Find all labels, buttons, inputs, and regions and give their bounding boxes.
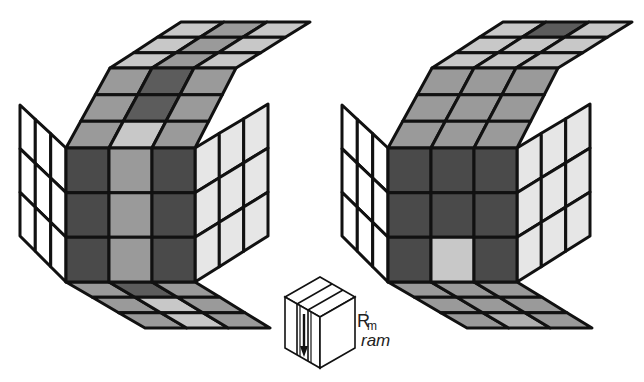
facelet [109,148,152,193]
front-face [388,148,517,282]
top-face-upper [110,22,310,68]
facelet [431,193,474,238]
top-face-lower [66,68,236,148]
facelet [388,148,431,193]
facelet [431,148,474,193]
facelet [388,237,431,282]
facelet [109,193,152,238]
right-face [195,104,268,282]
facelet [388,193,431,238]
facelet [66,237,109,282]
left-face [342,105,388,282]
facelet [109,237,152,282]
facelet [66,193,109,238]
facelet [152,148,195,193]
bottom-face [66,282,270,328]
rubiks-move-diagram: R′m ram [0,0,644,382]
middle-slice-move-icon [285,277,355,368]
facelet [431,237,474,282]
top-face-upper [432,22,632,68]
right-face [517,104,590,282]
move-name: ram [361,331,390,351]
front-face [66,148,195,282]
top-face-lower [388,68,558,148]
facelet [152,193,195,238]
move-notation: R′m [357,309,377,333]
facelet [152,237,195,282]
facelet [66,148,109,193]
cube-before-move [20,22,310,328]
cube-after-move [342,22,632,328]
left-face [20,105,66,282]
facelet [474,148,517,193]
facelet [474,237,517,282]
diagram-canvas [0,0,644,382]
bottom-face [388,282,592,328]
facelet [474,193,517,238]
